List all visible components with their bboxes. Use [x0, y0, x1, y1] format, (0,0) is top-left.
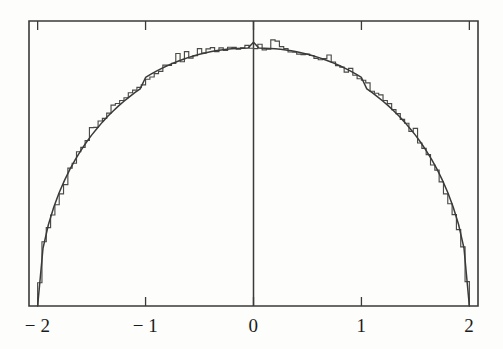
x-tick-label: 1 [356, 315, 366, 336]
chart-figure: − 2− 1012 [0, 0, 503, 349]
x-tick-label: 2 [464, 315, 474, 336]
x-tick-label: 0 [249, 315, 259, 336]
x-tick-label: − 2 [25, 315, 51, 336]
x-tick-label: − 1 [133, 315, 159, 336]
semicircle-distribution-chart: − 2− 1012 [0, 0, 503, 349]
